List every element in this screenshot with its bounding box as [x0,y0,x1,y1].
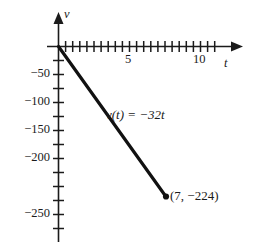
y-tick-label-minus200: −200 [8,151,50,164]
y-tick-label-minus100: −100 [8,95,50,108]
y-tick-label-minus50: −50 [8,67,50,80]
x-axis-name-t: t [224,57,227,70]
endpoint-annotation: (7, −224) [170,189,219,202]
x-tick-label-5: 5 [125,53,131,66]
y-axis-arrowhead [54,12,64,24]
y-tick-label-minus150: −150 [8,123,50,136]
y-tick-label-minus250: −250 [8,207,50,220]
y-axis-name-v: v [64,8,70,21]
endpoint-marker [163,193,169,199]
x-axis-arrowhead [231,42,243,52]
x-tick-label-10: 10 [193,53,206,66]
equation-annotation: v(t) = −32t [106,108,165,121]
velocity-time-graph-figure: 5 10 t v −50 −100 −150 −200 −250 v(t) = … [0,0,258,242]
